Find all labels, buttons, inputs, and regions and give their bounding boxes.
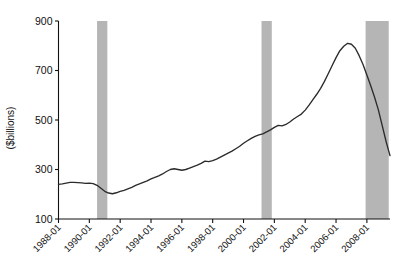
x-tick-label: 1990-01 (61, 222, 93, 254)
x-tick-label: 2008-01 (339, 222, 371, 254)
y-tick-label: 300 (35, 163, 53, 175)
chart-figure: ($billions) 100300500700900 1988-011990-… (0, 0, 402, 276)
data-series-line (59, 43, 391, 193)
x-tick-label: 2000-01 (215, 222, 247, 254)
chart-svg: 100300500700900 1988-011990-011992-01199… (0, 0, 402, 276)
x-tick-label: 1998-01 (185, 222, 217, 254)
x-tick-label: 1994-01 (123, 222, 155, 254)
x-tick-label: 2004-01 (277, 222, 309, 254)
y-tick-label: 500 (35, 114, 53, 126)
x-tick-label: 1996-01 (154, 222, 186, 254)
recession-bands-group (97, 21, 389, 219)
x-axis-ticks-group: 1988-011990-011992-011994-011996-011998-… (30, 219, 371, 254)
x-tick-label: 2006-01 (308, 222, 340, 254)
y-tick-label: 900 (35, 15, 53, 27)
y-tick-label: 700 (35, 64, 53, 76)
y-axis-ticks-group: 100300500700900 (35, 15, 59, 225)
x-tick-label: 1992-01 (92, 222, 124, 254)
x-tick-label: 2002-01 (246, 222, 278, 254)
recession-band-2 (262, 21, 272, 219)
y-tick-label: 100 (35, 213, 53, 225)
recession-band-3 (366, 21, 389, 219)
x-tick-label: 1988-01 (30, 222, 62, 254)
